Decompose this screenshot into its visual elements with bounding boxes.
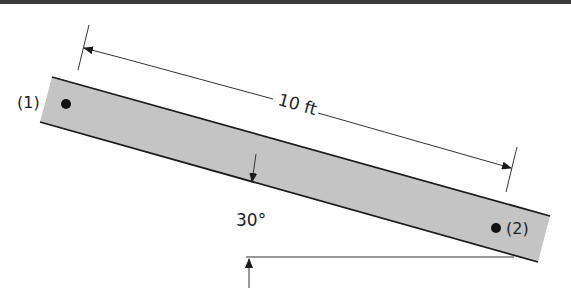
inclined-beam-diagram: 10 ft 30° (1) (2) [0, 0, 571, 302]
length-label: 10 ft [276, 89, 320, 119]
point-2-marker [491, 223, 501, 233]
point-1-label: (1) [17, 93, 40, 112]
point-2-label: (2) [506, 219, 529, 238]
angle-label: 30° [236, 210, 266, 230]
extension-line-left [78, 25, 89, 70]
point-1-marker [61, 99, 71, 109]
extension-line-right [506, 147, 517, 192]
